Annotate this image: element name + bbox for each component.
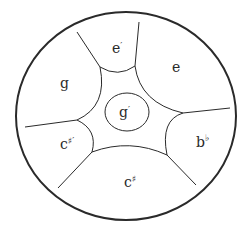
- steelpan-diagram: e′ e g g′ c♯′ b♭ c♯: [0, 0, 248, 231]
- label-g: g: [60, 75, 69, 91]
- divider-c-sharp-right: [167, 155, 196, 185]
- label-e: e: [172, 59, 180, 75]
- divider-e-prime-right: [135, 22, 139, 66]
- divider-c-sharp-left: [58, 152, 92, 188]
- label-b-flat: b♭: [196, 133, 209, 150]
- label-e-prime: e′: [112, 40, 122, 56]
- divider-left: [25, 120, 77, 127]
- label-c-sharp-prime: c♯′: [60, 136, 74, 152]
- arc-e-prime: [100, 66, 135, 72]
- arc-g: [77, 67, 102, 120]
- divider-right: [183, 108, 230, 113]
- arc-c-sharp: [92, 146, 167, 155]
- arc-c-sharp-prime: [77, 120, 93, 152]
- label-c-sharp: c♯: [124, 174, 136, 190]
- arc-b-flat: [165, 113, 183, 155]
- divider-e-prime-left: [77, 32, 100, 67]
- label-g-prime: g′: [119, 104, 130, 120]
